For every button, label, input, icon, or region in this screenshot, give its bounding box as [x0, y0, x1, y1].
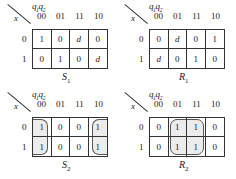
kmap-cell: 1	[169, 118, 188, 137]
kmap-cell: 0	[169, 49, 188, 68]
row-variable: x	[14, 101, 18, 111]
kmap-title: S2	[62, 159, 71, 173]
kmap-cell: 1	[187, 49, 206, 68]
column-header: 11	[187, 11, 206, 21]
row-header: 0	[22, 34, 27, 44]
kmap-cell: 0	[150, 118, 169, 137]
column-header: 10	[206, 99, 225, 109]
column-header: 01	[51, 11, 70, 21]
column-header: 00	[149, 99, 168, 109]
kmap-cell: 0	[206, 49, 225, 68]
kmap-title: R2	[179, 159, 189, 173]
column-header: 00	[149, 11, 168, 21]
kmap-cell: 0	[52, 118, 71, 137]
kmap-cell: 0	[206, 118, 225, 137]
kmap-cell: 0	[150, 137, 169, 156]
kmap-s2: q1q2 x 00 01 11 10 0 1 1 0 0 1 1 0 0 1 S…	[0, 88, 118, 178]
kmap-corner-diagonal	[124, 4, 148, 24]
kmap-cell: d	[169, 30, 188, 49]
kmap-grid: 0 d 0 1 d 0 1 0	[149, 29, 225, 69]
kmap-cell: 1	[187, 118, 206, 137]
kmap-cell: 0	[187, 30, 206, 49]
kmap-grid: 1 0 d 0 0 1 0 d	[32, 29, 108, 69]
column-header: 11	[70, 99, 89, 109]
kmap-corner-diagonal	[7, 4, 31, 24]
kmap-cell: 1	[206, 30, 225, 49]
kmap-cell: 1	[89, 118, 108, 137]
column-header: 10	[206, 11, 225, 21]
kmap-cell: 0	[206, 137, 225, 156]
kmap-cell: 0	[70, 118, 89, 137]
column-header: 00	[32, 99, 51, 109]
row-header: 0	[22, 122, 27, 132]
kmap-cell: 1	[33, 30, 52, 49]
column-header: 11	[70, 11, 89, 21]
kmap-cell: 0	[70, 137, 89, 156]
kmap-r1: q1q2 x 00 01 11 10 0 1 0 d 0 1 d 0 1 0 R…	[117, 0, 235, 90]
kmap-cell: 0	[33, 49, 52, 68]
column-header: 00	[32, 11, 51, 21]
column-header: 01	[168, 11, 187, 21]
row-variable: x	[131, 101, 135, 111]
row-header: 1	[22, 54, 27, 64]
kmap-cell: 1	[89, 137, 108, 156]
kmap-cell: 1	[187, 137, 206, 156]
kmap-cell: 0	[52, 30, 71, 49]
kmap-cell: 1	[52, 49, 71, 68]
kmap-cell: 1	[169, 137, 188, 156]
kmap-cell: 0	[70, 49, 89, 68]
row-header: 0	[139, 34, 144, 44]
row-variable: x	[131, 13, 135, 23]
kmap-cell: d	[150, 49, 169, 68]
kmap-cell: 1	[33, 118, 52, 137]
row-header: 1	[139, 54, 144, 64]
kmap-cell: 0	[52, 137, 71, 156]
kmap-corner-diagonal	[124, 92, 148, 112]
column-header: 10	[89, 99, 108, 109]
kmap-title: S1	[62, 71, 71, 85]
kmap-cell: 0	[150, 30, 169, 49]
kmap-cell: d	[89, 49, 108, 68]
row-header: 1	[139, 142, 144, 152]
kmap-title: R1	[179, 71, 189, 85]
row-header: 0	[139, 122, 144, 132]
column-header: 01	[168, 99, 187, 109]
kmap-corner-diagonal	[7, 92, 31, 112]
column-header: 11	[187, 99, 206, 109]
row-variable: x	[14, 13, 18, 23]
row-header: 1	[22, 142, 27, 152]
kmap-s1: q1q2 x 00 01 11 10 0 1 1 0 d 0 0 1 0 d S…	[0, 0, 118, 90]
kmap-r2: q1q2 x 00 01 11 10 0 1 0 1 1 0 0 1 1 0 R…	[117, 88, 235, 178]
column-header: 10	[89, 11, 108, 21]
kmap-cell: d	[70, 30, 89, 49]
kmap-cell: 1	[33, 137, 52, 156]
kmap-cell: 0	[89, 30, 108, 49]
column-header: 01	[51, 99, 70, 109]
kmap-grid: 0 1 1 0 0 1 1 0	[149, 117, 225, 157]
kmap-grid: 1 0 0 1 1 0 0 1	[32, 117, 108, 157]
